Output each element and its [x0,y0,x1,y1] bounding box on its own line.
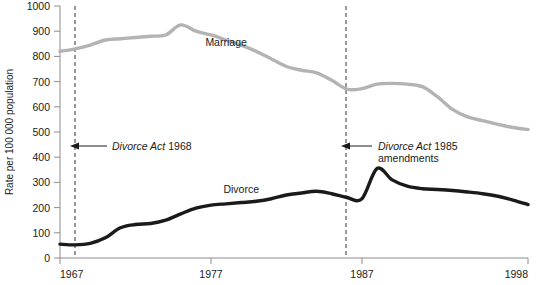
y-axis-title: Rate per 100 000 population [4,69,15,195]
annotation-2-line1: Divorce Act 1985 [378,140,458,152]
y-tick-label-0: 0 [44,252,50,264]
y-tick-label-1000: 1000 [27,0,51,12]
y-tick-label-600: 600 [32,101,50,113]
y-tick-label-100: 100 [32,227,50,239]
y-tick-label-400: 400 [32,151,50,163]
y-tick-label-900: 900 [32,25,50,37]
y-tick-label-700: 700 [32,76,50,88]
y-axis-ticks [54,6,60,258]
series-line-divorce [60,168,528,245]
chart-container: 1000 900 800 700 600 500 400 300 200 100… [0,0,536,285]
series-label-divorce: Divorce [223,183,259,195]
y-tick-label-800: 800 [32,50,50,62]
x-tick-label-1987: 1987 [350,268,374,280]
series-label-marriage: Marriage [205,36,247,48]
annotation-1-line1: Divorce Act 1968 [112,140,192,152]
annotation-2-line2: amendments [378,152,439,164]
line-chart: 1000 900 800 700 600 500 400 300 200 100… [0,0,536,285]
x-axis-ticks [60,258,528,264]
series-line-marriage [60,25,528,130]
x-tick-label-1967: 1967 [60,268,84,280]
y-tick-label-300: 300 [32,176,50,188]
y-tick-label-200: 200 [32,202,50,214]
annotation-divorce-act-1985-amendments: Divorce Act 1985 amendments [341,140,458,164]
x-tick-label-1998: 1998 [505,268,529,280]
annotation-divorce-act-1968: Divorce Act 1968 [70,140,192,152]
y-tick-label-500: 500 [32,126,50,138]
x-tick-label-1977: 1977 [199,268,223,280]
